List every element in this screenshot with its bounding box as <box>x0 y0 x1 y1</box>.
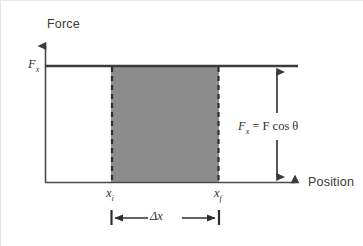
equation-lhs-main: F <box>238 119 246 133</box>
y-axis-value-main: F <box>28 57 36 71</box>
xi-tick-label: xi <box>106 187 114 203</box>
y-axis-value-sub: x <box>36 65 40 74</box>
xf-tick-label: xf <box>214 187 222 203</box>
y-axis-label: Force <box>47 18 80 31</box>
xi-sub: i <box>112 194 114 203</box>
shaded-work-area <box>111 66 219 183</box>
xf-sub: f <box>220 194 222 203</box>
x-axis-label: Position <box>308 176 354 189</box>
force-position-figure: Force Position Fx xi xf Δx Fx = F cos θ <box>0 0 363 246</box>
diagram-canvas <box>0 0 363 246</box>
deltax-label: Δx <box>150 210 163 223</box>
y-axis-value-label: Fx <box>28 58 39 74</box>
equation-rhs: = F cos θ <box>249 119 298 133</box>
force-equation-annotation: Fx = F cos θ <box>238 120 298 136</box>
